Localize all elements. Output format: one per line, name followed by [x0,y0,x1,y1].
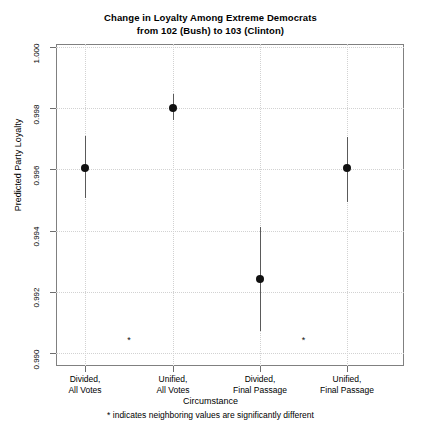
chart-title-line2: from 102 (Bush) to 103 (Clinton) [0,25,421,38]
y-axis-tick [50,47,56,48]
y-axis-tick-label: 0.992 [0,286,46,297]
y-axis-tick [50,353,56,354]
y-axis-tick-label: 0.994 [0,225,46,236]
x-axis-tick [260,366,261,372]
y-axis-tick-label: 1.000 [0,42,46,53]
x-axis-tick [173,366,174,372]
gridline-horizontal [56,108,404,109]
y-axis-tick [50,292,56,293]
x-tick-label-line1: Divided, [70,374,101,384]
x-axis-tick-label: Unified,Final Passage [292,374,402,396]
gridline-horizontal [56,292,404,293]
x-tick-label-line1: Divided, [245,374,276,384]
gridline-vertical [347,44,348,366]
significance-marker: * [302,335,306,344]
gridline-horizontal [56,47,404,48]
y-axis-tick-label: 0.996 [0,164,46,175]
data-point [256,275,264,283]
chart-title: Change in Loyalty Among Extreme Democrat… [0,12,421,37]
significance-marker: * [127,335,131,344]
y-axis-tick [50,169,56,170]
gridline-horizontal [56,353,404,354]
chart-footnote: * indicates neighboring values are signi… [0,410,421,420]
chart-title-line1: Change in Loyalty Among Extreme Democrat… [104,12,317,23]
plot-area: ** [56,44,404,366]
x-axis-tick [85,366,86,372]
data-point [169,104,177,112]
gridline-horizontal [56,169,404,170]
y-axis-tick [50,231,56,232]
y-axis-tick [50,108,56,109]
x-tick-label-line1: Unified, [159,374,188,384]
data-point [343,164,351,172]
gridline-vertical [85,44,86,366]
x-axis-tick [347,366,348,372]
x-tick-label-line2: Final Passage [292,385,402,396]
y-axis-tick-label: 0.998 [0,103,46,114]
gridline-horizontal [56,231,404,232]
chart-figure: Change in Loyalty Among Extreme Democrat… [0,0,421,444]
x-tick-label-line1: Unified, [333,374,362,384]
data-point [81,164,89,172]
y-axis-tick-label: 0.990 [0,348,46,359]
x-axis-title: Circumstance [0,396,421,406]
gridline-vertical [173,44,174,366]
